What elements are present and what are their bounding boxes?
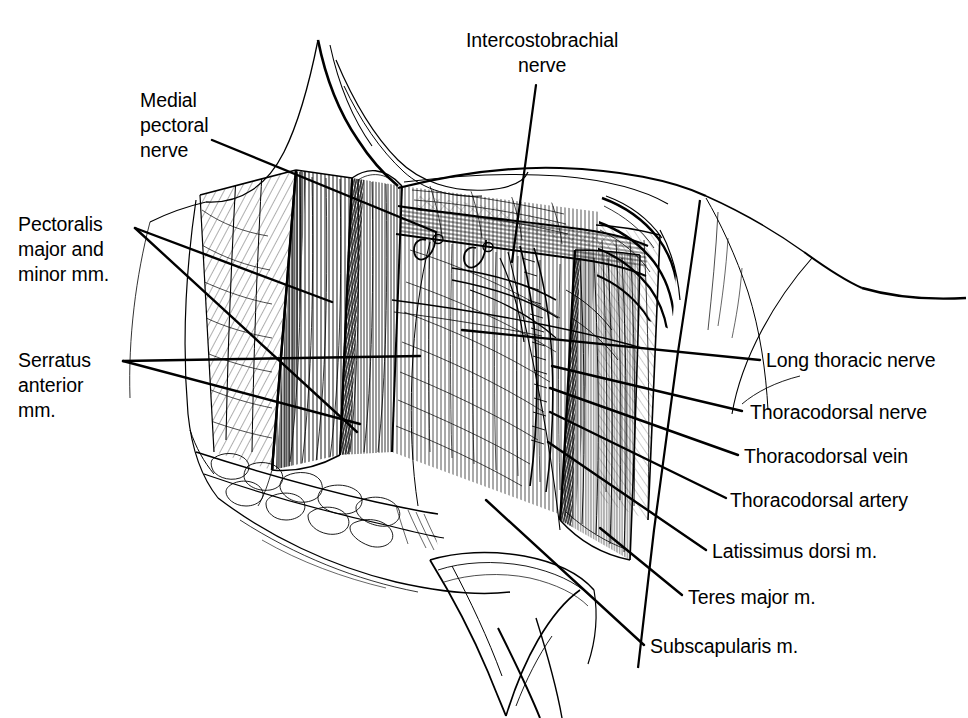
label-medial-pectoral-nerve-line-3: nerve [140, 139, 188, 161]
arm-stump-outline [430, 553, 596, 664]
label-thoracodorsal-nerve: Thoracodorsal nerve [750, 400, 927, 425]
label-intercostobrachial-nerve: Intercostobrachialnerve [466, 28, 618, 78]
label-intercostobrachial-line-1: Intercostobrachial [466, 29, 618, 51]
label-pectoralis-line-2: major and [18, 238, 104, 260]
label-serratus-line-3: mm. [18, 399, 56, 421]
label-teres-major: Teres major m. [688, 585, 816, 610]
label-pectoralis-major-and-minor: Pectoralismajor andminor mm. [18, 212, 109, 287]
label-medial-pectoral-nerve-line-1: Medial [140, 89, 197, 111]
label-pectoralis-line-1: Pectoralis [18, 213, 103, 235]
figure-page: Medialpectoralnerve Pectoralismajor andm… [0, 0, 968, 718]
label-long-thoracic-nerve: Long thoracic nerve [766, 348, 935, 373]
label-serratus-line-1: Serratus [18, 349, 91, 371]
label-serratus-line-2: anterior [18, 374, 83, 396]
label-thoracodorsal-artery: Thoracodorsal artery [730, 488, 908, 513]
label-serratus-anterior: Serratusanteriormm. [18, 348, 91, 423]
label-subscapularis: Subscapularis m. [650, 634, 798, 659]
label-thoracodorsal-vein: Thoracodorsal vein [744, 444, 908, 469]
leader-teres-major [600, 528, 682, 595]
label-latissimus-dorsi: Latissimus dorsi m. [712, 539, 877, 564]
label-intercostobrachial-line-2: nerve [518, 54, 566, 76]
label-pectoralis-line-3: minor mm. [18, 263, 109, 285]
label-medial-pectoral-nerve-line-2: pectoral [140, 114, 209, 136]
label-medial-pectoral-nerve: Medialpectoralnerve [140, 88, 209, 163]
